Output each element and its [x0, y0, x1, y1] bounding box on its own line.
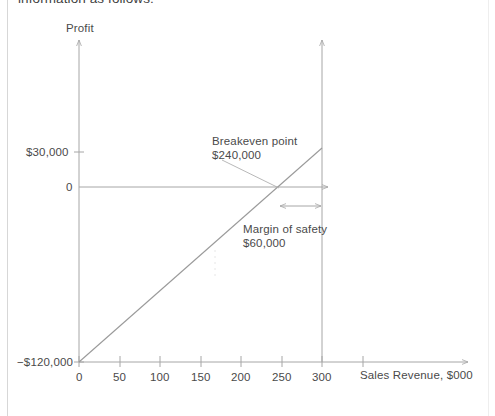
margin-of-safety-annotation-line1: Margin of safety	[243, 222, 327, 237]
breakeven-chart-graphic	[0, 0, 495, 416]
x-tick-label-200: 200	[231, 370, 251, 384]
x-axis-title: Sales Revenue, $000	[360, 368, 473, 382]
x-tick-label-150: 150	[191, 370, 211, 384]
x-tick-label-250: 250	[272, 370, 292, 384]
margin-of-safety-annotation-line2: $60,000	[243, 236, 286, 251]
x-tick-label-100: 100	[150, 370, 170, 384]
breakeven-annotation-line2: $240,000	[212, 148, 261, 163]
y-tick-label-30000: $30,000	[26, 145, 69, 159]
profit-line	[79, 148, 322, 362]
y-axis-title: Profit	[66, 21, 94, 35]
x-tick-label-0: 0	[76, 370, 83, 384]
chart-page: information as follows:	[0, 0, 495, 416]
x-tick-label-50: 50	[113, 370, 126, 384]
breakeven-annotation-line1: Breakeven point	[212, 134, 297, 149]
y-tick-label-0: 0	[66, 180, 73, 194]
y-tick-label-minus120000: −$120,000	[17, 355, 73, 369]
x-tick-label-300: 300	[312, 370, 332, 384]
breakeven-leader-line	[222, 160, 279, 188]
